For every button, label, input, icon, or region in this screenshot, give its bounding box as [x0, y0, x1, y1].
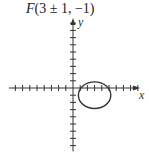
x-axis-label: x — [138, 88, 145, 102]
coordinate-plane: x y — [0, 0, 149, 157]
y-axis-arrow — [71, 18, 76, 25]
y-axis-label: y — [77, 15, 84, 29]
axis-ticks — [15, 23, 137, 145]
